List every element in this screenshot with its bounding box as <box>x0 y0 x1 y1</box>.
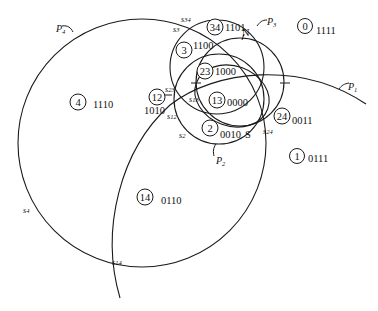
label-s34: s34 <box>181 15 191 24</box>
region-34: 34 1101 <box>207 19 246 35</box>
region-1: 1 0111 <box>290 149 329 165</box>
label-s2: s2 <box>179 131 186 140</box>
svg-text:1111: 1111 <box>316 25 336 36</box>
region-13: 13 0000 <box>209 92 248 108</box>
leader-p3 <box>257 20 267 26</box>
diagram-svg: P1 P3 P4 P2 N s34 s3 s23 s13 s12 s2 s24 … <box>0 0 378 311</box>
region-2: 2 0010 <box>202 120 241 140</box>
label-p1: P1 <box>347 81 357 93</box>
svg-text:14: 14 <box>140 192 151 203</box>
label-s3: s3 <box>173 25 180 34</box>
svg-text:1110: 1110 <box>93 99 113 110</box>
region-4: 4 1110 <box>70 94 113 110</box>
region-12: 12 1010 <box>144 89 165 116</box>
label-s24: s24 <box>263 127 273 136</box>
svg-text:0011: 0011 <box>292 115 313 126</box>
label-p3: P3 <box>266 16 277 28</box>
region-23: 23 1000 <box>197 63 236 79</box>
svg-text:1100: 1100 <box>193 40 214 51</box>
svg-text:24: 24 <box>277 111 288 122</box>
svg-text:1000: 1000 <box>215 66 236 77</box>
svg-text:3: 3 <box>181 45 186 56</box>
svg-text:4: 4 <box>75 97 81 108</box>
label-s4: s4 <box>23 206 30 215</box>
svg-text:0: 0 <box>302 21 307 32</box>
label-s: S <box>245 129 251 140</box>
svg-text:1101: 1101 <box>225 22 246 33</box>
region-14: 14 0110 <box>137 189 182 206</box>
svg-text:12: 12 <box>152 92 163 103</box>
label-p2: P2 <box>215 155 226 167</box>
label-s12: s12 <box>167 112 177 121</box>
label-p4: P4 <box>55 23 66 35</box>
svg-text:34: 34 <box>210 22 221 33</box>
svg-text:1010: 1010 <box>144 105 165 116</box>
svg-text:2: 2 <box>207 123 212 134</box>
label-s23: s23 <box>165 85 175 94</box>
svg-text:0111: 0111 <box>308 153 328 164</box>
label-s13: s13 <box>189 95 199 104</box>
svg-text:1: 1 <box>294 151 299 162</box>
svg-text:0010: 0010 <box>220 129 241 140</box>
label-s14: s14 <box>112 258 122 267</box>
svg-text:0110: 0110 <box>161 195 182 206</box>
svg-text:23: 23 <box>200 66 211 77</box>
curve-n <box>196 38 284 126</box>
svg-text:13: 13 <box>212 95 223 106</box>
diagram-canvas: P1 P3 P4 P2 N s34 s3 s23 s13 s12 s2 s24 … <box>0 0 378 311</box>
region-0: 0 1111 <box>298 19 336 37</box>
svg-text:0000: 0000 <box>227 97 248 108</box>
region-24: 24 0011 <box>274 108 313 126</box>
